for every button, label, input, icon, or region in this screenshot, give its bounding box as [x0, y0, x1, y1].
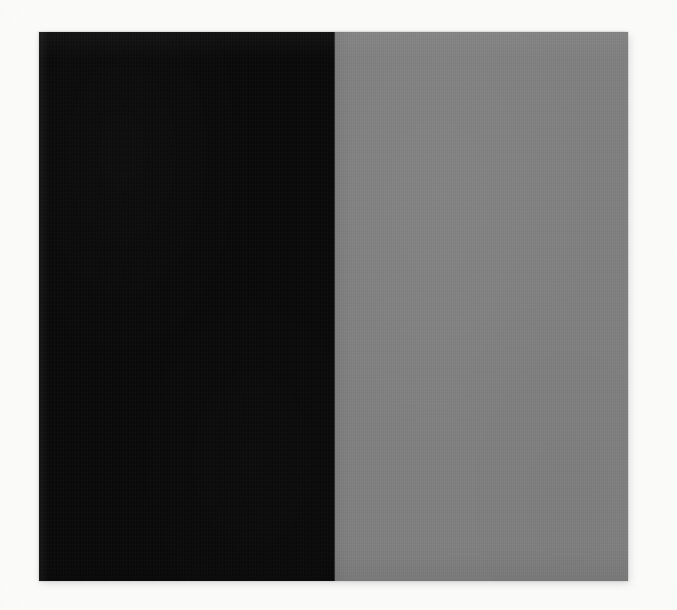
color-panel: [39, 32, 628, 581]
right-color-field: [334, 32, 628, 581]
artwork-canvas: A photographed rectangular panel divided…: [0, 0, 677, 610]
left-color-field: [39, 32, 334, 581]
